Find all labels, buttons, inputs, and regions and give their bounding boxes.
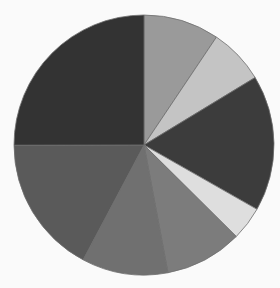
pie-chart [0,0,280,288]
pie-slice-8 [14,15,144,145]
pie-chart-svg [0,0,280,288]
